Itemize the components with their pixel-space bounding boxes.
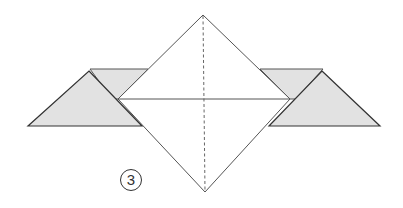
center-diamond — [118, 15, 290, 192]
origami-diagram — [0, 0, 403, 208]
step-number-badge: 3 — [120, 169, 142, 191]
